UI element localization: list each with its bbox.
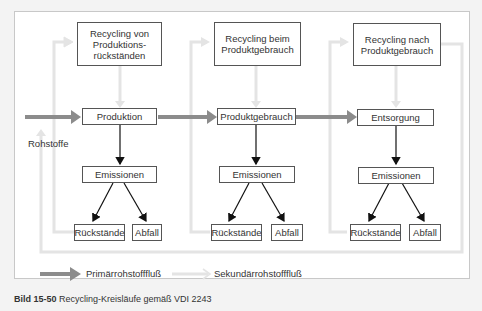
waste-box-2: Abfall	[271, 224, 303, 241]
stage-disposal: Entsorgung	[357, 109, 434, 126]
box-recycling-after-use: Recycling nach Produktgebrauch	[353, 23, 441, 66]
box-line: Produktgebrauch	[221, 44, 293, 55]
waste-box-3: Abfall	[409, 224, 441, 241]
waste-box-1: Abfall	[132, 224, 162, 241]
residues-box-2: Rückstände	[211, 224, 262, 241]
box-line: Produktgebrauch	[361, 45, 433, 56]
emissions-box-3: Emissionen	[358, 167, 434, 184]
residues-box-3: Rückstände	[350, 224, 401, 241]
legend-secondary-label: Sekundärrohstofffluß	[214, 268, 302, 279]
box-recycling-during-use: Recycling beim Produktgebrauch	[214, 22, 301, 66]
caption-text: Recycling-Kreisläufe gemäß VDI 2243	[59, 294, 212, 304]
emissions-box-2: Emissionen	[219, 166, 295, 183]
box-recycling-production-residues: Recycling von Produktions- rückständen	[77, 22, 162, 66]
box-line: Recycling von	[90, 28, 149, 39]
box-line: Produktions-	[90, 39, 149, 50]
raw-materials-label: Rohstoffe	[28, 138, 69, 149]
caption-number: Bild 15-50	[14, 294, 57, 304]
emissions-box-1: Emissionen	[82, 166, 157, 183]
box-line: rückständen	[90, 50, 149, 61]
stage-production: Produktion	[82, 108, 157, 125]
box-line: Recycling beim	[221, 33, 293, 44]
stage-product-use: Produktgebrauch	[217, 108, 296, 125]
legend-primary-label: Primärrohstofffluß	[86, 268, 161, 279]
figure-caption: Bild 15-50 Recycling-Kreisläufe gemäß VD…	[14, 294, 212, 304]
box-line: Recycling nach	[361, 34, 433, 45]
residues-box-1: Rückstände	[74, 224, 125, 241]
